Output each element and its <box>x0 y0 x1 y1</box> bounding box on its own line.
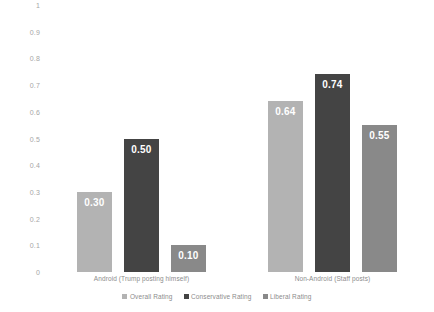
bar-value-label: 0.10 <box>171 250 206 261</box>
bar-chart: 10.90.80.70.60.50.40.30.20.10 0.300.500.… <box>0 0 434 312</box>
legend-label: Liberal Rating <box>270 293 312 300</box>
chart-legend: Overall RatingConservative RatingLiberal… <box>0 293 434 300</box>
legend-swatch-icon <box>263 294 268 299</box>
y-axis-tick-label: 0.7 <box>30 82 40 89</box>
category-axis-label: Non-Android (Staff posts) <box>295 275 371 282</box>
y-axis-tick-label: 0.3 <box>30 188 40 195</box>
category-axis: Android (Trump posting himself)Non-Andro… <box>46 275 428 289</box>
y-axis-tick-label: 0.5 <box>30 135 40 142</box>
plot-area: 0.300.500.100.640.740.55 <box>46 5 428 272</box>
bar[interactable]: 0.10 <box>171 245 206 272</box>
legend-label: Conservative Rating <box>191 293 251 300</box>
bar[interactable]: 0.74 <box>315 74 350 272</box>
y-axis-tick-label: 0.4 <box>30 162 40 169</box>
bar[interactable]: 0.30 <box>77 192 112 272</box>
bar-value-label: 0.74 <box>315 79 350 90</box>
bar[interactable]: 0.55 <box>362 125 397 272</box>
y-axis-tick-label: 1 <box>36 2 40 9</box>
bar[interactable]: 0.50 <box>124 139 159 273</box>
y-axis: 10.90.80.70.60.50.40.30.20.10 <box>0 0 46 278</box>
legend-label: Overall Rating <box>130 293 173 300</box>
y-axis-tick-label: 0.8 <box>30 55 40 62</box>
bar[interactable]: 0.64 <box>268 101 303 272</box>
bar-value-label: 0.30 <box>77 197 112 208</box>
y-axis-tick-label: 0.9 <box>30 28 40 35</box>
bar-value-label: 0.64 <box>268 106 303 117</box>
bar-value-label: 0.55 <box>362 130 397 141</box>
category-axis-label: Android (Trump posting himself) <box>94 275 189 282</box>
legend-item[interactable]: Conservative Rating <box>184 293 252 300</box>
bar-value-label: 0.50 <box>124 144 159 155</box>
legend-swatch-icon <box>184 294 189 299</box>
legend-swatch-icon <box>122 294 127 299</box>
legend-item[interactable]: Liberal Rating <box>263 293 312 300</box>
y-axis-tick-label: 0 <box>36 269 40 276</box>
y-axis-tick-label: 0.2 <box>30 215 40 222</box>
y-axis-tick-label: 0.6 <box>30 108 40 115</box>
y-axis-tick-label: 0.1 <box>30 242 40 249</box>
legend-item[interactable]: Overall Rating <box>122 293 172 300</box>
